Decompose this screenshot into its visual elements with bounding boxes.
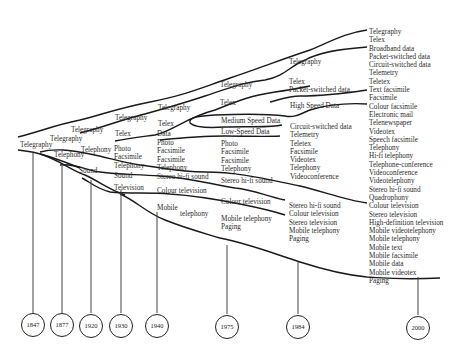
label-stack-1940: PhotoFacsimileFacsimileTelephony	[157, 139, 187, 172]
label-telex-1930: Telex	[115, 130, 131, 138]
label-high-speed-data: High Speed Data	[290, 102, 339, 110]
label-stack-1930: PhotoFacsimileTelephony	[114, 145, 144, 170]
label-av-1984: Stereo hi-fi soundColour televisionStere…	[289, 202, 341, 243]
label-telegraphy-1940: Telegraphy	[158, 104, 190, 112]
label-circuit-1984: Circuit-switched dataTelemetryTeletexFac…	[290, 123, 352, 181]
year-marker-1920: 1920	[79, 314, 103, 338]
label-data-1940: Data	[157, 130, 171, 138]
label-medium-speed-data: Medium Speed Data	[221, 117, 280, 125]
label-low-speed-data: Low-Speed Data	[221, 128, 270, 136]
label-telegraphy-1984: Telegraphy	[289, 58, 321, 66]
label-sound-1930: Sound	[114, 172, 132, 180]
label-colour-tv-1940: Colour television	[157, 187, 207, 195]
label-sound-1920: Sound	[79, 167, 97, 175]
label-mobile-1940: Mobile	[157, 204, 178, 212]
label-telegraphy-1920: Telegraphy	[71, 126, 103, 134]
label-telegraphy-1975: Telegraphy	[220, 81, 252, 89]
year-marker-1975: 1975	[215, 315, 239, 339]
label-stereo-1940: Stereo hi-fi sound	[157, 173, 209, 181]
year-marker-1940: 1940	[145, 314, 169, 338]
year-marker-1930: 1930	[109, 314, 133, 338]
label-telex-1940: Telex	[158, 120, 174, 128]
label-telex-1984: TelexPacket-switched data	[289, 78, 350, 95]
year-marker-1984: 1984	[286, 315, 310, 339]
telecom-evolution-diagram: 1847 1877 1920 1930 1940 1975 1984 2000 …	[0, 0, 462, 350]
label-stereo-1975: Stereo hi-fi sound	[221, 177, 273, 185]
label-telegraphy-1847: Telegraphy	[20, 141, 52, 149]
label-services-2000: TelegraphyTelexBroadband dataPacket-swit…	[369, 28, 443, 285]
label-telex-1975: Telex	[220, 99, 236, 107]
label-telephony-1877: Telephony	[54, 151, 84, 159]
label-telephony-1920: Telephony	[81, 146, 111, 154]
label-telegraphy-1930: Telegraphy	[115, 114, 147, 122]
year-marker-1847: 1847	[21, 313, 45, 337]
label-mobile-telephony-1940: telephony	[180, 210, 208, 218]
year-marker-2000: 2000	[406, 316, 430, 340]
label-telegraphy-1877: Telegraphy	[50, 135, 82, 143]
label-mobile-1975: Mobile telephonyPaging	[221, 215, 272, 232]
label-television-1930: Television	[114, 184, 144, 192]
label-colour-tv-1975: Colour television	[221, 198, 271, 206]
year-marker-1877: 1877	[50, 313, 74, 337]
label-stack-1975: PhotoFacsimileFacsimileTelephony	[221, 140, 251, 173]
